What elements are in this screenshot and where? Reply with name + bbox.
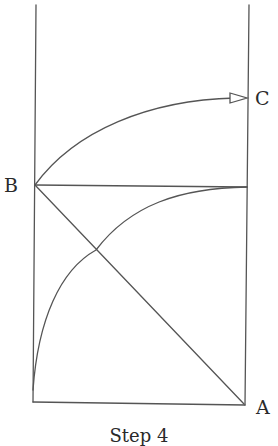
diagram-caption: Step 4 xyxy=(0,427,278,445)
label-b: B xyxy=(4,176,18,195)
upper-curve-b-to-c xyxy=(35,98,235,185)
arrowhead-icon xyxy=(230,93,247,103)
diagonal-line-b-to-a xyxy=(35,185,244,404)
label-a: A xyxy=(256,398,270,417)
bottom-line xyxy=(33,402,245,405)
left-vertical-line xyxy=(33,5,36,402)
label-c: C xyxy=(255,89,270,108)
horizontal-line-b xyxy=(35,185,247,187)
right-vertical-line xyxy=(245,5,249,405)
